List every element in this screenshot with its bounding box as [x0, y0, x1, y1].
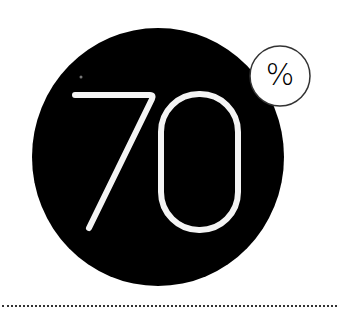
dotted-divider [2, 305, 337, 307]
speck [80, 76, 83, 79]
seventy-percent-illustration [0, 0, 339, 313]
percent-symbol: % [258, 52, 302, 96]
percentage-graphic: % 70 [0, 0, 339, 313]
